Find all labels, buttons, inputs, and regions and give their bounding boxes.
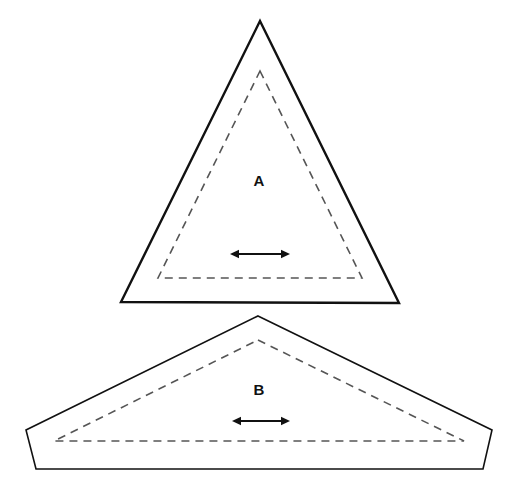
diagram-svg: A B [0, 0, 519, 496]
shape-b-label: B [254, 381, 265, 398]
shape-a-label: A [254, 172, 265, 189]
figure-canvas: A B [0, 0, 519, 496]
